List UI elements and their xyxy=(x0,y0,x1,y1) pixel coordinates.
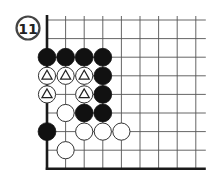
black-stone xyxy=(94,104,112,122)
white-stone xyxy=(113,123,130,140)
black-stone xyxy=(57,48,75,66)
white-stone-triangle xyxy=(76,86,93,103)
black-stone xyxy=(94,67,112,85)
white-stone-triangle xyxy=(38,86,55,103)
white-stone xyxy=(76,123,93,140)
go-board-diagram: 11 xyxy=(0,0,219,178)
black-stone xyxy=(75,104,93,122)
white-stone xyxy=(57,142,74,159)
black-stone xyxy=(38,48,56,66)
black-stone xyxy=(75,48,93,66)
white-stone-triangle xyxy=(76,67,93,84)
white-stone xyxy=(57,104,74,121)
black-stone xyxy=(38,123,56,141)
black-stone xyxy=(94,48,112,66)
diagram-number-badge: 11 xyxy=(17,17,40,40)
diagram-number: 11 xyxy=(18,21,37,37)
white-stone-triangle xyxy=(38,67,55,84)
white-stone-triangle xyxy=(57,67,74,84)
white-stone xyxy=(94,123,111,140)
black-stone xyxy=(94,86,112,104)
